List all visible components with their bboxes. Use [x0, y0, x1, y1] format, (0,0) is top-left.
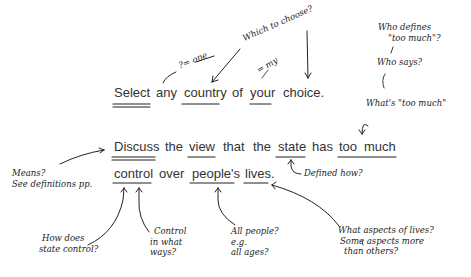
annotated-essay-question: Select any country of your choice. Discu… — [0, 0, 471, 277]
underlines-line1 — [113, 104, 271, 107]
underlines-line2 — [112, 157, 396, 160]
annotation-strokes — [0, 0, 471, 277]
